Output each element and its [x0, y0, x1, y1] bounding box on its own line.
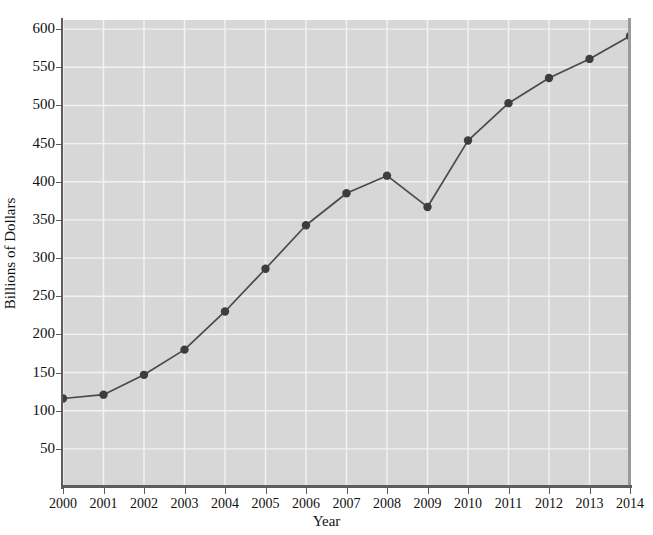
x-tick-mark [590, 488, 591, 494]
data-point [464, 136, 472, 144]
plot-svg [63, 20, 630, 487]
x-tick-mark [549, 488, 550, 494]
y-tick-label: 100 [33, 403, 56, 418]
x-tick-label: 2005 [252, 496, 280, 511]
y-axis-title-label: Billions of Dollars [3, 198, 20, 310]
x-tick-label: 2006 [292, 496, 320, 511]
x-tick-mark [306, 488, 307, 494]
x-tick-label: 2011 [495, 496, 522, 511]
x-tick-label: 2010 [454, 496, 482, 511]
x-tick-label: 2003 [171, 496, 199, 511]
x-tick-label: 2002 [130, 496, 158, 511]
y-tick-label: 450 [33, 136, 56, 151]
x-tick-label: 2000 [49, 496, 77, 511]
y-tick-mark [56, 449, 62, 450]
data-point [99, 390, 107, 398]
data-point [261, 265, 269, 273]
y-tick-label: 500 [33, 97, 56, 112]
x-tick-label: 2014 [616, 496, 644, 511]
x-tick-mark [225, 488, 226, 494]
x-tick-mark [347, 488, 348, 494]
x-tick-label: 2008 [373, 496, 401, 511]
y-tick-mark [56, 258, 62, 259]
data-point [140, 371, 148, 379]
plot-area [63, 20, 630, 487]
y-tick-mark [56, 144, 62, 145]
data-point [504, 99, 512, 107]
y-tick-mark [56, 67, 62, 68]
y-tick-mark [56, 411, 62, 412]
y-tick-mark [56, 334, 62, 335]
y-axis-line [61, 18, 63, 489]
y-tick-label: 250 [33, 288, 56, 303]
y-tick-mark [56, 29, 62, 30]
x-tick-label: 2007 [333, 496, 361, 511]
y-tick-label: 600 [33, 21, 56, 36]
data-point [63, 394, 67, 402]
y-tick-label: 200 [33, 326, 56, 341]
x-tick-mark [509, 488, 510, 494]
data-point [302, 221, 310, 229]
x-tick-label: 2009 [414, 496, 442, 511]
y-tick-mark [56, 296, 62, 297]
plot-right-border [628, 18, 631, 488]
y-tick-label: 550 [33, 59, 56, 74]
y-tick-label: 50 [40, 441, 55, 456]
x-axis-title-label: Year [313, 513, 341, 529]
x-tick-mark [468, 488, 469, 494]
y-tick-label: 150 [33, 365, 56, 380]
x-tick-mark [630, 488, 631, 494]
x-tick-label: 2013 [576, 496, 604, 511]
x-tick-mark [185, 488, 186, 494]
x-tick-mark [428, 488, 429, 494]
y-tick-mark [56, 105, 62, 106]
data-point [423, 203, 431, 211]
y-tick-mark [56, 182, 62, 183]
data-point [180, 345, 188, 353]
y-tick-mark [56, 373, 62, 374]
x-tick-label: 2012 [535, 496, 563, 511]
x-tick-mark [266, 488, 267, 494]
x-tick-label: 2004 [211, 496, 239, 511]
x-tick-mark [104, 488, 105, 494]
data-point [545, 74, 553, 82]
data-point [585, 55, 593, 63]
x-axis-title: Year [0, 513, 653, 530]
y-tick-label: 350 [33, 212, 56, 227]
line-chart: 50100150200250300350400450500550600 2000… [0, 0, 653, 535]
data-point [383, 171, 391, 179]
y-tick-mark [56, 220, 62, 221]
x-tick-mark [144, 488, 145, 494]
data-point [221, 307, 229, 315]
y-tick-label: 400 [33, 174, 56, 189]
y-tick-label: 300 [33, 250, 56, 265]
gridlines [63, 20, 630, 487]
x-tick-mark [387, 488, 388, 494]
x-tick-label: 2001 [90, 496, 118, 511]
x-tick-mark [63, 488, 64, 494]
data-point [342, 189, 350, 197]
y-axis-title: Billions of Dollars [0, 0, 22, 507]
